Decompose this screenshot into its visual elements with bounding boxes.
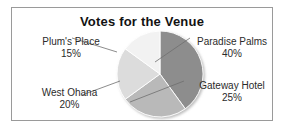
pie-label-paradise-palms-value: 40% bbox=[180, 48, 284, 60]
pie-label-plums-place-name: Plum's Place bbox=[25, 36, 117, 48]
pie-label-plums-place: Plum's Place 15% bbox=[25, 36, 117, 60]
pie-label-gateway-hotel-name: Gateway Hotel bbox=[180, 80, 284, 92]
pie-label-gateway-hotel-value: 25% bbox=[180, 92, 284, 104]
pie-label-gateway-hotel: Gateway Hotel 25% bbox=[180, 80, 284, 104]
pie-label-west-ohana: West Ohana 20% bbox=[22, 87, 117, 111]
chart-card: Votes for the Venue Plum's Place 15% Par… bbox=[11, 7, 273, 121]
pie-label-plums-place-value: 15% bbox=[25, 48, 117, 60]
pie-label-paradise-palms: Paradise Palms 40% bbox=[180, 36, 284, 60]
pie-label-paradise-palms-name: Paradise Palms bbox=[180, 36, 284, 48]
chart-title: Votes for the Venue bbox=[12, 14, 272, 29]
pie-label-west-ohana-value: 20% bbox=[22, 99, 117, 111]
pie-label-west-ohana-name: West Ohana bbox=[22, 87, 117, 99]
